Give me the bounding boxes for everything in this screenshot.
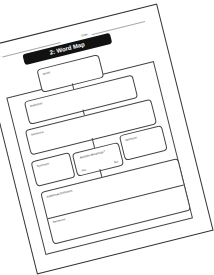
name-label: Name (0, 54, 1, 60)
sentence-label: Sentence: (31, 130, 45, 137)
word-label: Word: (42, 70, 51, 76)
worksheet-page: Name Date 2: Word Map Word: Definition: … (0, 3, 214, 274)
sentence2-label: Sentence: (52, 217, 66, 224)
definition-label: Definition: (30, 101, 44, 108)
multiple-meanings-label: Multiple Meanings? (80, 149, 106, 159)
date-label: Date (81, 32, 88, 37)
no-label: No (114, 160, 119, 165)
synonym-label: Synonym: (36, 161, 50, 168)
yes-label: Yes (81, 168, 87, 173)
date-line (91, 21, 145, 35)
antonym-label: Antonym: (125, 135, 138, 142)
additional-definition-label: Additional Definition: (46, 188, 74, 199)
